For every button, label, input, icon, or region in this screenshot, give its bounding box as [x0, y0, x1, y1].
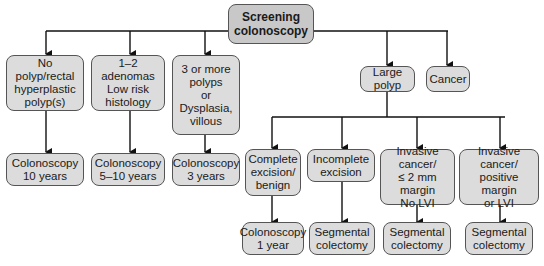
node-text: Colonoscopy — [173, 157, 239, 170]
node-text: Colonoscopy — [95, 157, 161, 170]
node-text: colectomy — [472, 239, 527, 252]
node-text: Screening — [234, 10, 308, 24]
colonoscopy-10-years-node: Colonoscopy10 years — [6, 153, 84, 186]
node-text: Invasive — [462, 145, 536, 158]
node-text: or — [179, 89, 232, 102]
cancer-node: Cancer — [426, 66, 470, 92]
node-text: Colonoscopy — [12, 157, 78, 170]
large-polyp-node: Large polyp — [360, 66, 415, 92]
high-risk-polyps-node: 3 or morepolypsorDysplasia,villous — [172, 55, 240, 135]
node-text: Cancer — [429, 73, 466, 86]
colonoscopy-3-years-node: Colonoscopy3 years — [172, 153, 240, 186]
node-text: Complete — [248, 153, 297, 166]
invasive-cancer-positive-margin-node: Invasivecancer/positive marginor LVI — [459, 149, 539, 205]
node-text: or LVI — [462, 197, 536, 210]
node-text: Segmental — [390, 226, 445, 239]
node-text: 3 or more — [179, 63, 232, 76]
node-text: No polyp/rectal — [9, 57, 81, 83]
node-text: colonoscopy — [234, 24, 308, 38]
node-text: cancer/ — [383, 158, 452, 171]
incomplete-excision-node: Incompleteexcision — [307, 149, 375, 182]
node-text: excision — [313, 166, 369, 179]
node-text: ≤ 2 mm margin — [383, 171, 452, 197]
node-text: Dysplasia, — [179, 102, 232, 115]
node-text: colectomy — [390, 239, 445, 252]
segmental-colectomy-node-2: Segmentalcolectomy — [383, 222, 451, 255]
node-text: hyperplastic — [9, 83, 81, 96]
colonoscopy-5-10-years-node: Colonoscopy5–10 years — [91, 153, 165, 186]
node-text: No LVI — [383, 197, 452, 210]
colonoscopy-1-year-node: Colonoscopy1 year — [242, 222, 304, 255]
node-text: excision/ — [248, 166, 297, 179]
node-text: 5–10 years — [95, 170, 161, 183]
node-text: Incomplete — [313, 153, 369, 166]
screening-colonoscopy-node: Screeningcolonoscopy — [228, 4, 314, 44]
no-polyp-node: No polyp/rectalhyperplasticpolyp(s) — [6, 55, 84, 111]
node-text: histology — [94, 96, 162, 109]
low-risk-adenomas-node: 1–2 adenomasLow riskhistology — [91, 55, 165, 111]
node-text: villous — [179, 115, 232, 128]
node-text: 3 years — [173, 170, 239, 183]
node-text: Segmental — [315, 226, 370, 239]
invasive-cancer-clear-margin-node: Invasivecancer/≤ 2 mm marginNo LVI — [380, 149, 455, 205]
node-text: cancer/ — [462, 158, 536, 171]
node-text: 10 years — [12, 170, 78, 183]
segmental-colectomy-node-3: Segmentalcolectomy — [465, 222, 533, 255]
node-text: Segmental — [472, 226, 527, 239]
node-text: Low risk — [94, 83, 162, 96]
node-text: Colonoscopy — [240, 226, 306, 239]
complete-excision-node: Completeexcision/benign — [245, 149, 301, 196]
node-text: benign — [248, 179, 297, 192]
node-text: Invasive — [383, 145, 452, 158]
node-text: Large polyp — [363, 66, 412, 92]
segmental-colectomy-node-1: Segmentalcolectomy — [309, 222, 375, 255]
node-text: polyp(s) — [9, 96, 81, 109]
node-text: 1 year — [240, 239, 306, 252]
node-text: positive margin — [462, 171, 536, 197]
node-text: polyps — [179, 76, 232, 89]
node-text: colectomy — [315, 239, 370, 252]
node-text: 1–2 adenomas — [94, 57, 162, 83]
